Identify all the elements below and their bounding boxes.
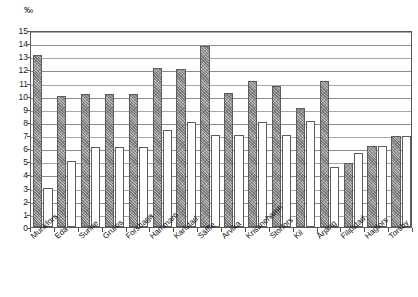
y-axis-tick-mark <box>27 31 30 32</box>
bar-series-b <box>234 135 243 227</box>
y-axis-tick-mark <box>27 228 30 229</box>
y-axis-tick-label: 14 <box>4 40 28 49</box>
y-axis-tick-mark <box>27 189 30 190</box>
bar-series-a <box>224 93 233 227</box>
bar-series-a <box>248 81 257 227</box>
bar-series-b <box>187 122 196 227</box>
bar-series-a <box>320 81 329 227</box>
y-axis-tick-label: 12 <box>4 66 28 75</box>
y-axis-tick-label: 7 <box>4 132 28 141</box>
bar-series-a <box>367 146 376 227</box>
y-axis-tick-mark <box>27 44 30 45</box>
bar-series-a <box>391 136 400 227</box>
y-axis-tick-label: 3 <box>4 185 28 194</box>
y-axis-tick-label: 11 <box>4 80 28 89</box>
y-axis-tick-label: 6 <box>4 145 28 154</box>
bar-series-b <box>282 135 291 227</box>
bar-series-a <box>81 94 90 227</box>
bar-series-a <box>344 163 353 227</box>
y-axis-tick-mark <box>27 175 30 176</box>
bar-series-a <box>105 94 114 227</box>
bar-series-a <box>176 69 185 227</box>
y-axis-tick-mark <box>27 215 30 216</box>
y-axis-tick-label: 5 <box>4 158 28 167</box>
bar-series-a <box>153 68 162 227</box>
bar-series-b <box>91 147 100 227</box>
y-axis-tick-mark <box>27 84 30 85</box>
x-axis-labels: MunkforsEdaSunneGrumsForshagaHammaröKarl… <box>0 228 418 297</box>
y-axis-tick-label: 13 <box>4 53 28 62</box>
y-axis-tick-mark <box>27 136 30 137</box>
y-axis-tick-mark <box>27 162 30 163</box>
bar-series-a <box>129 94 138 227</box>
y-axis-tick-label: 1 <box>4 211 28 220</box>
bar-series-b <box>67 161 76 227</box>
y-axis-tick-label: 15 <box>4 27 28 36</box>
bar-series-b <box>402 136 411 227</box>
y-axis-tick-mark <box>27 123 30 124</box>
y-axis-tick-mark <box>27 149 30 150</box>
y-axis-tick-label: 9 <box>4 106 28 115</box>
y-axis-tick-mark <box>27 110 30 111</box>
y-axis-tick-label: 10 <box>4 93 28 102</box>
x-axis-category-label: Kil <box>292 228 305 241</box>
plot-area <box>30 31 412 228</box>
bar-series-a <box>296 108 305 228</box>
y-axis-tick-mark <box>27 57 30 58</box>
bar-series-b <box>258 122 267 227</box>
bar-series-a <box>33 55 42 227</box>
bar-series-b <box>211 135 220 227</box>
y-axis-tick-label: 4 <box>4 171 28 180</box>
bars-container <box>31 32 411 227</box>
y-axis-tick-label: 2 <box>4 198 28 207</box>
bar-series-b <box>306 121 315 227</box>
bar-chart: ‰ 1514131211109876543210 MunkforsEdaSunn… <box>0 0 418 297</box>
y-axis-tick-label: 8 <box>4 119 28 128</box>
y-axis-tick-mark <box>27 70 30 71</box>
bar-series-b <box>115 147 124 227</box>
y-axis-tick-mark <box>27 97 30 98</box>
bar-series-a <box>57 96 66 227</box>
bar-series-a <box>200 46 209 227</box>
y-axis-tick-mark <box>27 202 30 203</box>
